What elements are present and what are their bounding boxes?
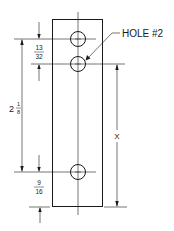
svg-text:32: 32	[35, 53, 43, 60]
svg-text:1: 1	[17, 101, 20, 107]
technical-drawing: HOLE #2 13 32 2 1 8 9 16 X	[0, 0, 174, 231]
hole-2-label: HOLE #2	[122, 28, 164, 39]
dim-9-16-label: 9 16	[34, 179, 44, 195]
dim-x-label: X	[114, 132, 120, 141]
svg-text:9: 9	[37, 179, 41, 186]
dim-2-1-8-line	[20, 39, 23, 172]
svg-text:8: 8	[17, 109, 20, 115]
svg-text:13: 13	[35, 44, 43, 51]
svg-text:2: 2	[9, 104, 14, 114]
dim-13-32-arrows	[37, 22, 40, 81]
svg-text:16: 16	[35, 188, 43, 195]
dim-2-1-8-label: 2 1 8	[9, 101, 21, 115]
plate-outline	[53, 20, 103, 207]
dim-13-32-label: 13 32	[34, 44, 44, 60]
